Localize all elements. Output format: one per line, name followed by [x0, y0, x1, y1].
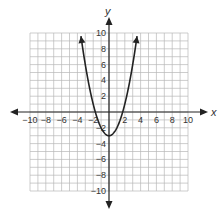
svg-text:4: 4: [138, 115, 143, 125]
svg-text:6: 6: [101, 60, 106, 70]
svg-text:−6: −6: [56, 115, 66, 125]
svg-text:10: 10: [96, 28, 106, 38]
svg-text:4: 4: [101, 75, 106, 85]
svg-text:2: 2: [101, 91, 106, 101]
svg-text:−8: −8: [41, 115, 51, 125]
svg-text:−10: −10: [91, 186, 106, 196]
svg-text:2: 2: [122, 115, 127, 125]
svg-text:−4: −4: [72, 115, 82, 125]
svg-text:8: 8: [101, 44, 106, 54]
svg-text:10: 10: [183, 115, 193, 125]
svg-text:−8: −8: [96, 170, 106, 180]
svg-text:−6: −6: [96, 154, 106, 164]
coordinate-plane: −10−8−6−4−2246810108642−2−4−6−8−10 x y: [0, 0, 221, 217]
svg-text:6: 6: [154, 115, 159, 125]
axes: [10, 17, 208, 209]
svg-text:−10: −10: [22, 115, 37, 125]
svg-text:8: 8: [170, 115, 175, 125]
y-axis-label: y: [104, 5, 112, 17]
x-axis-label: x: [210, 106, 217, 118]
svg-text:−4: −4: [96, 139, 106, 149]
